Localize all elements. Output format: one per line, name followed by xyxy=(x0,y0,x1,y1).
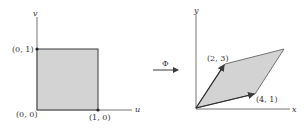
left-panel: v u (0, 1) (0, 0) (1, 0) xyxy=(12,9,140,122)
mapping-arrow: Φ xyxy=(153,59,178,70)
phi-label: Φ xyxy=(162,59,169,68)
label-1-0: (1, 0) xyxy=(89,113,111,122)
x-axis-label: x xyxy=(292,105,297,114)
y-axis-label: y xyxy=(193,6,199,15)
unit-square xyxy=(37,49,98,110)
label-4-1: (4, 1) xyxy=(256,95,278,104)
label-0-1: (0, 1) xyxy=(12,45,34,54)
label-0-0: (0, 0) xyxy=(16,110,38,119)
right-panel: y x (2, 3) (4, 1) xyxy=(193,6,297,114)
point-0-1 xyxy=(35,47,38,50)
point-1-0 xyxy=(96,108,99,111)
diagram-canvas: v u (0, 1) (0, 0) (1, 0) Φ y x (2, 3) (4… xyxy=(0,0,308,128)
u-axis-label: u xyxy=(135,105,140,114)
label-2-3: (2, 3) xyxy=(207,54,229,63)
v-axis-label: v xyxy=(33,9,38,18)
